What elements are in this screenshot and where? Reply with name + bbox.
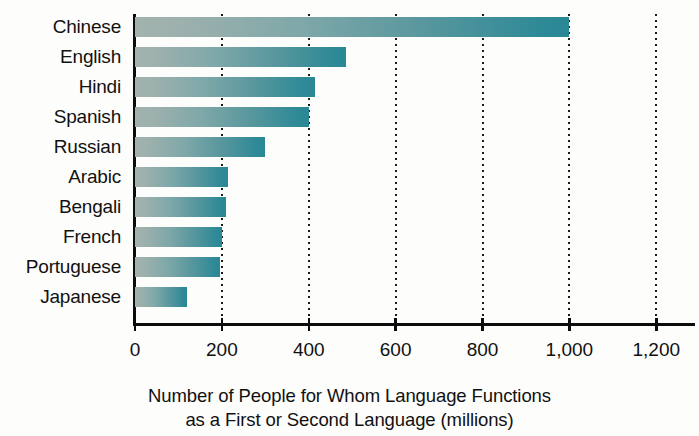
- x-axis-title-line: as a First or Second Language (millions): [0, 408, 699, 432]
- x-axis-tick: [655, 318, 658, 331]
- gridline: [482, 14, 484, 324]
- bar: [135, 167, 228, 187]
- x-axis-title: Number of People for Whom Language Funct…: [0, 384, 699, 432]
- x-axis-tick: [134, 318, 137, 331]
- x-axis-tick-label: 0: [130, 339, 141, 361]
- category-label: Russian: [54, 137, 121, 157]
- bar-chart: ChineseEnglishHindiSpanishRussianArabicB…: [0, 0, 699, 436]
- x-axis-tick-label: 200: [206, 339, 238, 361]
- bar: [135, 227, 222, 247]
- x-axis-title-line: Number of People for Whom Language Funct…: [0, 384, 699, 408]
- category-label: English: [60, 47, 121, 67]
- x-axis-tick-label: 600: [380, 339, 412, 361]
- plot-area: [135, 14, 691, 324]
- x-axis-tick: [481, 318, 484, 331]
- x-axis-tick-label: 1,000: [546, 339, 594, 361]
- category-axis-labels: ChineseEnglishHindiSpanishRussianArabicB…: [0, 0, 128, 436]
- bar: [135, 197, 226, 217]
- x-axis-tick: [568, 318, 571, 331]
- x-axis-tick: [308, 318, 311, 331]
- gridline: [395, 14, 397, 324]
- bar: [135, 77, 315, 97]
- category-label: Hindi: [79, 77, 121, 97]
- category-label: Portuguese: [26, 257, 121, 277]
- category-label: Japanese: [40, 287, 121, 307]
- bar: [135, 17, 569, 37]
- x-axis-tick-label: 400: [293, 339, 325, 361]
- gridline: [655, 14, 657, 324]
- x-axis-tick: [221, 318, 224, 331]
- x-axis-tick-label: 1,200: [632, 339, 680, 361]
- x-axis-line: [133, 323, 695, 326]
- category-label: Chinese: [53, 17, 121, 37]
- x-axis-tick-label: 800: [467, 339, 499, 361]
- category-label: Spanish: [54, 107, 121, 127]
- category-label: Arabic: [68, 167, 121, 187]
- bar: [135, 257, 220, 277]
- bar: [135, 107, 309, 127]
- gridline: [568, 14, 570, 324]
- bar: [135, 287, 187, 307]
- bar: [135, 137, 265, 157]
- x-axis-tick: [394, 318, 397, 331]
- category-label: Bengali: [59, 197, 121, 217]
- category-label: French: [63, 227, 121, 247]
- bar: [135, 47, 346, 67]
